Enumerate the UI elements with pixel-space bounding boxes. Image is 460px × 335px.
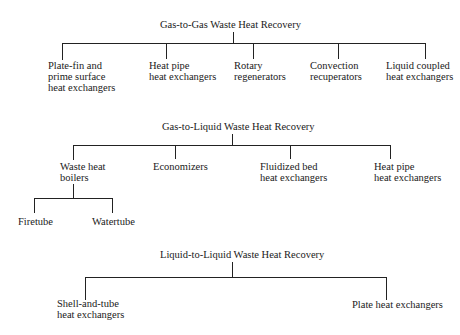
connector [85,277,86,300]
connector [62,43,426,44]
connector [175,145,176,159]
node-fluidized-bed: Fluidized bed heat exchangers [260,161,327,183]
connector [425,43,426,59]
node-shell-and-tube: Shell-and-tube heat exchangers [57,298,124,320]
connector [290,145,291,159]
node-watertube: Watertube [92,216,135,227]
connector [166,43,167,59]
connector [73,145,74,160]
gas-to-gas-title: Gas-to-Gas Waste Heat Recovery [160,19,301,30]
gas-to-liquid-title: Gas-to-Liquid Waste Heat Recovery [162,121,315,132]
node-plate-fin: Plate-fin and prime surface heat exchang… [48,60,115,93]
connector [73,184,74,198]
node-rotary-regenerators: Rotary regenerators [234,60,286,82]
connector [73,145,391,146]
connector [34,198,35,213]
connector [338,43,339,59]
connector [85,277,387,278]
connector [386,277,387,300]
connector [34,198,113,199]
connector [390,145,391,159]
node-waste-heat-boilers: Waste heat boilers [60,161,106,183]
node-convection-recuperators: Convection recuperators [310,60,362,82]
connector [253,43,254,59]
connector [232,262,233,277]
connector [62,43,63,60]
connector [112,198,113,213]
node-heat-pipe-2: Heat pipe heat exchangers [374,161,441,183]
liquid-to-liquid-title: Liquid-to-Liquid Waste Heat Recovery [160,249,324,260]
node-heat-pipe: Heat pipe heat exchangers [149,60,216,82]
node-plate-heat-exchangers: Plate heat exchangers [352,299,443,310]
node-firetube: Firetube [18,216,53,227]
node-economizers: Economizers [153,161,208,172]
node-liquid-coupled: Liquid coupled heat exchangers [386,60,453,82]
